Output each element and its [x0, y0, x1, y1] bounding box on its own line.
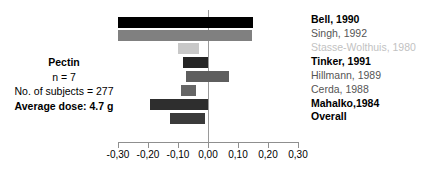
study-label: Overall [311, 111, 347, 122]
bar-cerda-1988 [181, 85, 196, 96]
x-axis-tick-label: 0,00 [198, 149, 217, 160]
x-axis-tick [238, 142, 239, 148]
bar-row [0, 113, 310, 124]
x-axis-tick-label: 0,30 [288, 149, 307, 160]
study-label-list: Bell, 1990Singh, 1992Stasse-Wolthuis, 19… [311, 0, 445, 130]
bar-overall [170, 113, 205, 124]
forest-plot-figure: Pectinn = 7No. of subjects = 277Average … [0, 0, 445, 175]
plot-area: -0,30-0,20-0,100,000,100,200,30 [0, 0, 310, 160]
bar-tinker-1991 [183, 57, 208, 68]
x-axis-tick [148, 142, 149, 148]
x-axis-tick [118, 142, 119, 148]
bar-mahalko-1984 [150, 99, 208, 110]
caption-strip [0, 171, 445, 175]
bar-hillmann-1989 [186, 71, 230, 82]
x-axis-tick-label: -0,10 [167, 149, 190, 160]
bar-row [0, 57, 310, 68]
study-label: Hillmann, 1989 [311, 70, 381, 81]
x-axis-tick [178, 142, 179, 148]
bar-stasse-wolthuis-1980 [178, 43, 199, 54]
study-label: Stasse-Wolthuis, 1980 [311, 42, 416, 53]
bar-row [0, 71, 310, 82]
study-label: Mahalko,1984 [311, 98, 379, 109]
x-axis-tick-label: -0,30 [107, 149, 130, 160]
study-label: Singh, 1992 [311, 28, 367, 39]
bar-singh-1992 [118, 30, 252, 41]
study-label: Tinker, 1991 [311, 56, 371, 67]
x-axis-tick-label: -0,20 [137, 149, 160, 160]
x-axis-tick [268, 142, 269, 148]
x-axis-tick-label: 0,10 [228, 149, 247, 160]
x-axis-tick [208, 142, 209, 148]
bar-row [0, 99, 310, 110]
bar-row [0, 85, 310, 96]
bar-row [0, 30, 310, 41]
bar-row [0, 17, 310, 28]
x-axis-tick-label: 0,20 [258, 149, 277, 160]
study-label: Cerda, 1988 [311, 84, 369, 95]
bar-bell-1990 [118, 17, 253, 28]
study-label: Bell, 1990 [311, 14, 359, 25]
bar-row [0, 43, 310, 54]
x-axis-tick [298, 142, 299, 148]
